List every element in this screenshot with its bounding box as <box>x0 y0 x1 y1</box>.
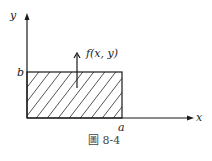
b-label: b <box>17 66 24 79</box>
figure-8-4: y x b a f(x, y) 圖 8-4 <box>0 0 212 161</box>
hatched-region <box>0 60 169 125</box>
y-axis-label: y <box>9 9 17 22</box>
y-axis-arrow-icon <box>25 13 30 20</box>
x-axis-arrow-icon <box>187 116 194 121</box>
figure-caption: 圖 8-4 <box>88 134 120 147</box>
a-label: a <box>118 121 125 134</box>
x-axis-label: x <box>196 111 203 124</box>
vector-label: f(x, y) <box>85 47 118 60</box>
